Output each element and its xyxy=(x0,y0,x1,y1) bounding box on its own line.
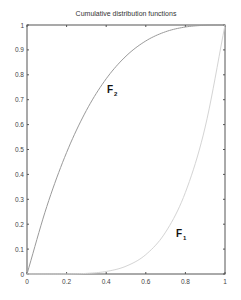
svg-text:F: F xyxy=(176,228,182,239)
y-tick-label: 0.9 xyxy=(15,46,24,53)
y-tick-label: 0.4 xyxy=(15,171,24,178)
x-tick-label: 0.4 xyxy=(102,278,111,285)
y-tick-label: 0 xyxy=(20,271,24,278)
y-tick-label: 0.3 xyxy=(15,196,24,203)
y-tick-label: 0.8 xyxy=(15,71,24,78)
y-tick-label: 0.1 xyxy=(15,246,24,253)
plot-area xyxy=(27,25,225,274)
x-tick-label: 0 xyxy=(25,278,29,285)
y-tick-label: 0.2 xyxy=(15,221,24,228)
x-tick-label: 0.2 xyxy=(62,278,71,285)
y-tick-label: 0.7 xyxy=(15,96,24,103)
x-tick-label: 1 xyxy=(223,278,227,285)
x-tick-label: 0.6 xyxy=(141,278,150,285)
cdf-chart: Cumulative distribution functions 00.20.… xyxy=(0,0,241,300)
y-tick-label: 0.6 xyxy=(15,121,24,128)
svg-text:F: F xyxy=(107,84,113,95)
y-tick-label: 0.5 xyxy=(15,146,24,153)
y-tick-label: 1 xyxy=(20,22,24,29)
x-tick-label: 0.8 xyxy=(181,278,190,285)
chart-title: Cumulative distribution functions xyxy=(76,10,177,17)
